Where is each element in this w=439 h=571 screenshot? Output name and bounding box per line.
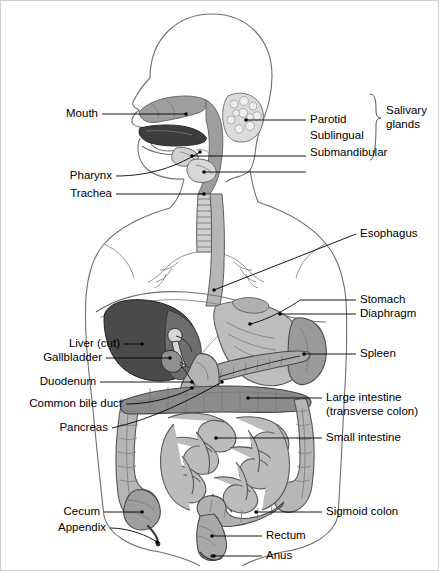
label-duodenum: Duodenum (4, 375, 96, 388)
label-parotid: Parotid (310, 113, 346, 126)
label-common-bile-duct: Common bile duct (0, 397, 122, 410)
label-large-intestine-sub: (transverse colon) (326, 405, 418, 418)
label-small-intestine: Small intestine (326, 431, 401, 444)
label-trachea: Trachea (8, 187, 112, 200)
label-pancreas: Pancreas (4, 421, 108, 434)
label-mouth: Mouth (8, 107, 98, 120)
label-large-intestine: Large intestine (326, 391, 401, 404)
label-sublingual: Sublingual (310, 129, 364, 142)
label-liver-cut: Liver (cut) (4, 337, 120, 350)
label-salivary-glands: Salivary glands (386, 104, 427, 131)
parotid-gland (223, 93, 264, 142)
label-sigmoid-colon: Sigmoid colon (326, 505, 398, 518)
label-spleen: Spleen (360, 347, 396, 360)
salivary-glands-line2: glands (386, 118, 427, 132)
label-submandibular: Submandibular (310, 146, 387, 159)
label-rectum: Rectum (266, 529, 306, 542)
label-gallbladder: Gallbladder (4, 351, 102, 364)
salivary-glands-line1: Salivary (386, 104, 427, 118)
label-esophagus: Esophagus (360, 227, 418, 240)
anatomy-illustration: .ol{fill:none;stroke:#6f6f6f;stroke-widt… (0, 0, 439, 571)
label-stomach: Stomach (360, 293, 405, 306)
label-anus: Anus (266, 549, 292, 562)
label-cecum: Cecum (20, 505, 100, 518)
digestive-system-diagram: .ol{fill:none;stroke:#6f6f6f;stroke-widt… (0, 0, 439, 571)
label-diaphragm: Diaphragm (360, 307, 416, 320)
label-appendix: Appendix (20, 521, 106, 534)
label-pharynx: Pharynx (8, 169, 112, 182)
